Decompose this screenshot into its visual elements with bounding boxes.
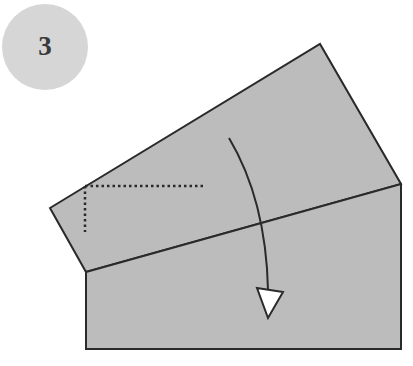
fold-diagram <box>0 0 413 366</box>
